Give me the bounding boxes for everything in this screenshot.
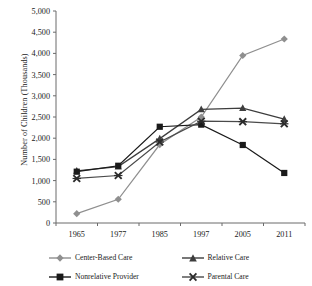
series-line <box>77 108 285 171</box>
data-point-marker <box>74 169 80 175</box>
data-point-marker <box>73 210 80 217</box>
y-axis-tick-label: 1,000 <box>32 177 50 186</box>
y-axis-tick-label: 3,000 <box>32 92 50 101</box>
series-nonrelative-provider <box>74 122 288 177</box>
y-axis-tick-label: 1,500 <box>32 155 50 164</box>
y-axis-tick-label: 0 <box>46 219 50 228</box>
chart-legend: Center-Based Care Relative Care Nonrelat… <box>0 249 311 286</box>
legend-item-center-based-care[interactable]: Center-Based Care <box>48 249 179 268</box>
x-axis-tick-label: 2005 <box>235 230 251 239</box>
x-axis-tick-label: 1997 <box>193 230 209 239</box>
data-point-marker <box>157 124 163 130</box>
line-chart-svg: 05001,0001,5002,0002,5003,0003,5004,0004… <box>0 0 311 248</box>
series-line <box>77 39 285 214</box>
y-axis-tick-label: 2,000 <box>32 134 50 143</box>
legend-label-nonrelative-provider: Nonrelative Provider <box>75 273 139 281</box>
legend-item-nonrelative-provider[interactable]: Nonrelative Provider <box>48 268 179 286</box>
series-center-based-care <box>73 35 288 217</box>
legend-label-parental-care: Parental Care <box>208 273 249 281</box>
legend-swatch-x-cross <box>181 271 205 283</box>
series-parental-care <box>73 118 289 182</box>
data-point-marker <box>115 163 121 169</box>
legend-swatch-square <box>48 271 72 283</box>
legend-item-parental-care[interactable]: Parental Care <box>181 268 312 286</box>
legend-swatch-triangle <box>181 252 205 264</box>
x-axis-tick-label: 1985 <box>152 230 168 239</box>
legend-item-relative-care[interactable]: Relative Care <box>181 249 312 268</box>
y-axis-tick-label: 4,000 <box>32 49 50 58</box>
chart-container: 05001,0001,5002,0002,5003,0003,5004,0004… <box>0 0 311 286</box>
x-axis-tick-label: 1977 <box>110 230 126 239</box>
y-axis-tick-label: 2,500 <box>32 113 50 122</box>
y-axis-tick-label: 4,500 <box>32 28 50 37</box>
legend-label-center-based-care: Center-Based Care <box>75 254 132 262</box>
y-axis-tick-label: 500 <box>38 198 50 207</box>
data-point-marker <box>281 170 287 176</box>
legend-swatch-diamond <box>48 252 72 264</box>
legend-label-relative-care: Relative Care <box>208 254 250 262</box>
x-axis-tick-label: 2011 <box>276 230 292 239</box>
y-axis-tick-label: 3,500 <box>32 71 50 80</box>
y-axis-title: Number of Children (Thousands) <box>20 10 29 210</box>
data-point-marker <box>239 52 246 59</box>
series-line <box>77 121 285 178</box>
x-axis-tick-label: 1965 <box>69 230 85 239</box>
data-point-marker <box>281 35 288 42</box>
y-axis-tick-label: 5,000 <box>32 7 50 16</box>
plot-area: 05001,0001,5002,0002,5003,0003,5004,0004… <box>0 0 311 248</box>
data-point-marker <box>240 142 246 148</box>
series-relative-care <box>73 104 288 174</box>
